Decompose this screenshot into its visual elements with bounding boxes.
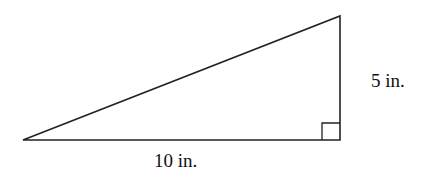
triangle-diagram bbox=[0, 0, 429, 177]
right-angle-marker bbox=[322, 123, 340, 140]
height-label: 5 in. bbox=[371, 70, 405, 92]
right-triangle bbox=[23, 16, 340, 140]
base-label: 10 in. bbox=[154, 150, 197, 172]
